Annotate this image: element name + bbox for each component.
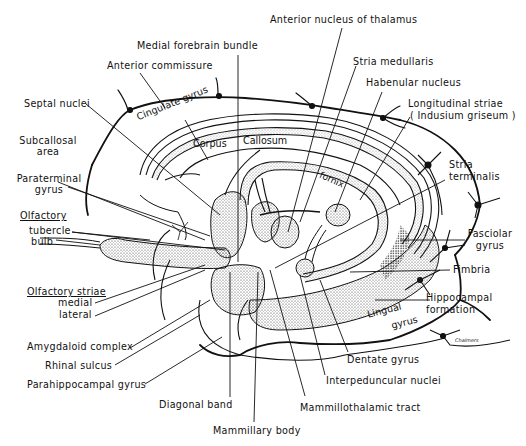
label-hippocampal-formation: formation — [426, 304, 475, 315]
artist-signature: Chalmers — [455, 337, 479, 343]
label-habenular-nucleus: Habenular nucleus — [366, 77, 461, 88]
label-dentate-gyrus: Dentate gyrus — [347, 354, 419, 365]
label-callosum: Callosum — [243, 135, 287, 146]
label-subcallosal: Subcallosal — [18, 135, 78, 146]
label-stria-medullaris: Stria medullaris — [353, 56, 433, 67]
label-medial: medial — [58, 297, 92, 308]
label-parahippocampal-gyrus: Parahippocampal gyrus — [27, 379, 146, 390]
label-stria-terminalis: terminalis — [449, 171, 500, 182]
label-bulb: bulb — [31, 236, 53, 247]
olfactory-bulb — [40, 238, 230, 269]
label-olfactory: Olfactory — [20, 210, 67, 221]
label-interpeduncular-nuclei: Interpeduncular nuclei — [326, 375, 441, 386]
label-diagonal-band: Diagonal band — [159, 399, 233, 410]
label-longitudinal-striae: Longitudinal striae — [408, 98, 503, 109]
label-rhinal-sulcus: Rhinal sulcus — [45, 360, 112, 371]
limbic-system-diagram: Anterior nucleus of thalamus Medial fore… — [0, 0, 526, 446]
label-stria: Stria — [449, 159, 473, 170]
label-lateral: lateral — [59, 309, 92, 320]
label-tubercle: tubercle — [29, 225, 71, 236]
label-fimbria: Fimbria — [453, 264, 491, 275]
label-olfactory-striae: Olfactory striae — [27, 286, 106, 297]
label-paraterminal-gyrus: gyrus — [14, 184, 84, 195]
label-subcallosal-area: area — [18, 146, 78, 157]
label-indusium-griseum: ( Indusium griseum ) — [410, 110, 516, 121]
label-amygdaloid-complex: Amygdaloid complex — [27, 341, 133, 352]
label-septal-nuclei: Septal nuclei — [24, 98, 90, 109]
label-mammillothalamic-tract: Mammillothalamic tract — [300, 402, 421, 413]
label-medial-forebrain-bundle: Medial forebrain bundle — [137, 40, 258, 51]
label-anterior-commissure: Anterior commissure — [107, 60, 213, 71]
label-mammillary-body: Mammillary body — [213, 425, 301, 436]
label-hippocampal: Hippocampal — [426, 292, 492, 303]
label-corpus: Corpus — [193, 138, 227, 149]
label-anterior-nucleus-of-thalamus: Anterior nucleus of thalamus — [270, 14, 417, 25]
label-fasciolar: Fasciolar — [465, 228, 515, 239]
label-paraterminal: Paraterminal — [14, 173, 84, 184]
label-fasciolar-gyrus: gyrus — [465, 240, 515, 251]
